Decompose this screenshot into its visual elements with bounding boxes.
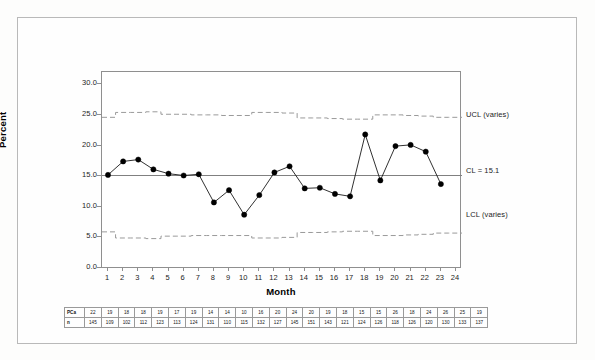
y-axis-tick-label: 25.0 bbox=[63, 110, 97, 118]
table-cell: 121 bbox=[336, 318, 353, 328]
table-cell: 26 bbox=[437, 308, 454, 318]
table-cell: 19 bbox=[320, 308, 337, 318]
plot-area bbox=[101, 71, 461, 267]
x-axis-tick bbox=[349, 267, 350, 271]
y-axis-tick bbox=[97, 175, 101, 176]
table-cell: 112 bbox=[135, 318, 152, 328]
x-axis-tick bbox=[258, 267, 259, 271]
data-point bbox=[332, 191, 337, 196]
lcl-annotation: LCL (varies) bbox=[466, 210, 508, 219]
table-cell: 151 bbox=[303, 318, 320, 328]
table-cell: 131 bbox=[202, 318, 219, 328]
table-row: PCa2219181819171914141016202420191815152… bbox=[65, 308, 488, 318]
table-cell: 22 bbox=[85, 308, 102, 318]
x-axis-tick bbox=[289, 267, 290, 271]
x-axis-tick bbox=[213, 267, 214, 271]
x-axis-tick bbox=[379, 267, 380, 271]
data-point bbox=[317, 185, 322, 190]
table-cell: 17 bbox=[168, 308, 185, 318]
x-axis-tick bbox=[304, 267, 305, 271]
data-point bbox=[151, 167, 156, 172]
table-cell: 19 bbox=[471, 308, 488, 318]
control-chart: Percent 0.05.010.015.020.025.030.0 Month… bbox=[0, 0, 595, 360]
x-axis-tick bbox=[394, 267, 395, 271]
x-axis-tick bbox=[425, 267, 426, 271]
table-cell: 15 bbox=[370, 308, 387, 318]
x-axis-tick bbox=[198, 267, 199, 271]
y-axis-tick-label: 0.0 bbox=[63, 263, 97, 271]
table-cell: 124 bbox=[353, 318, 370, 328]
data-point bbox=[196, 172, 201, 177]
x-axis-tick bbox=[440, 267, 441, 271]
table-cell: 24 bbox=[420, 308, 437, 318]
scanned-page: Percent 0.05.010.015.020.025.030.0 Month… bbox=[0, 0, 595, 360]
y-axis-tick bbox=[97, 145, 101, 146]
x-axis-tick bbox=[168, 267, 169, 271]
data-table: PCa2219181819171914141016202420191815152… bbox=[64, 307, 488, 328]
table-cell: 20 bbox=[269, 308, 286, 318]
table-cell: 19 bbox=[185, 308, 202, 318]
x-axis-tick bbox=[183, 267, 184, 271]
x-axis-tick bbox=[410, 267, 411, 271]
data-point bbox=[287, 164, 292, 169]
table-cell: 143 bbox=[320, 318, 337, 328]
data-point bbox=[181, 173, 186, 178]
data-point bbox=[105, 172, 110, 177]
x-axis-tick bbox=[243, 267, 244, 271]
x-axis-line bbox=[101, 267, 461, 268]
table-cell: 16 bbox=[252, 308, 269, 318]
table-cell: 18 bbox=[135, 308, 152, 318]
x-axis-tick bbox=[228, 267, 229, 271]
data-point bbox=[242, 212, 247, 217]
data-point bbox=[438, 181, 443, 186]
x-axis-tick bbox=[334, 267, 335, 271]
table-cell: 18 bbox=[404, 308, 421, 318]
plot-svg bbox=[102, 72, 462, 268]
ucl-annotation: UCL (varies) bbox=[466, 110, 509, 119]
table-cell: 14 bbox=[202, 308, 219, 318]
x-axis-tick bbox=[152, 267, 153, 271]
table-cell: 14 bbox=[219, 308, 236, 318]
table-cell: 126 bbox=[404, 318, 421, 328]
y-axis-tick-label: 5.0 bbox=[63, 232, 97, 240]
table-cell: 24 bbox=[286, 308, 303, 318]
data-point bbox=[302, 186, 307, 191]
y-axis-tick-label: 20.0 bbox=[63, 141, 97, 149]
data-point bbox=[121, 159, 126, 164]
data-point bbox=[363, 132, 368, 137]
table-cell: 20 bbox=[303, 308, 320, 318]
table-cell: 120 bbox=[420, 318, 437, 328]
table-cell: 102 bbox=[118, 318, 135, 328]
data-point bbox=[226, 188, 231, 193]
x-axis-tick bbox=[273, 267, 274, 271]
data-point bbox=[423, 149, 428, 154]
data-point bbox=[408, 142, 413, 147]
y-axis-tick-label: 10.0 bbox=[63, 202, 97, 210]
table-cell: 127 bbox=[269, 318, 286, 328]
x-axis-tick bbox=[319, 267, 320, 271]
data-table-body: PCa2219181819171914141016202420191815152… bbox=[65, 308, 488, 328]
x-axis-tick bbox=[122, 267, 123, 271]
table-cell: 115 bbox=[236, 318, 253, 328]
y-axis-tick bbox=[97, 83, 101, 84]
data-point bbox=[257, 193, 262, 198]
table-cell: 126 bbox=[370, 318, 387, 328]
table-cell: 109 bbox=[101, 318, 118, 328]
data-point bbox=[378, 178, 383, 183]
x-axis-tick bbox=[137, 267, 138, 271]
table-cell: 19 bbox=[101, 308, 118, 318]
y-axis-tick-label: 15.0 bbox=[63, 171, 97, 179]
data-point bbox=[211, 200, 216, 205]
table-row-label: PCa bbox=[65, 308, 85, 318]
table-cell: 123 bbox=[152, 318, 169, 328]
x-axis-tick-label: 24 bbox=[445, 273, 465, 282]
table-cell: 133 bbox=[454, 318, 471, 328]
table-cell: 124 bbox=[185, 318, 202, 328]
table-cell: 145 bbox=[85, 318, 102, 328]
table-cell: 15 bbox=[353, 308, 370, 318]
x-axis-tick bbox=[107, 267, 108, 271]
y-axis-tick bbox=[97, 206, 101, 207]
y-axis-title: Percent bbox=[0, 112, 8, 148]
data-point bbox=[272, 170, 277, 175]
data-point bbox=[136, 157, 141, 162]
